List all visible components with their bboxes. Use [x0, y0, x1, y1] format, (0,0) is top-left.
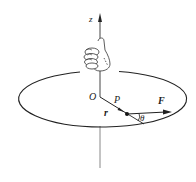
- radius-label: r: [104, 107, 108, 118]
- force-vector: [127, 112, 166, 114]
- angle-label: θ: [140, 113, 145, 123]
- origin-label: O: [89, 91, 96, 102]
- torque-diagram: z O P r F θ: [0, 0, 196, 182]
- force-arrowhead-icon: [163, 110, 172, 115]
- right-hand-icon: [84, 38, 110, 71]
- z-axis-arrowhead-icon: [98, 13, 102, 22]
- point-label: P: [113, 94, 120, 105]
- diagram-canvas: z O P r F θ: [0, 0, 196, 182]
- z-axis-label: z: [88, 14, 93, 24]
- force-label: F: [157, 95, 165, 106]
